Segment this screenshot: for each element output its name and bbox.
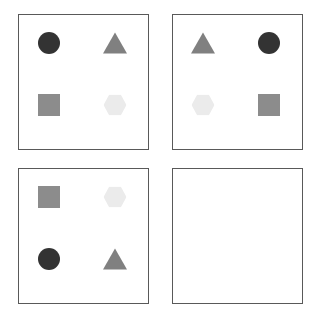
shape-slot-top-right [100,28,130,58]
circle-shape [38,32,60,54]
shape-slot-bottom-left [188,90,218,120]
circle-shape [258,32,280,54]
shape-slot-top-left [188,28,218,58]
square-shape [38,94,60,116]
matrix-panel-bottom-left[interactable] [18,168,149,304]
shape-slot-bottom-right [100,244,130,274]
triangle-shape [191,33,215,54]
hexagon-shape [192,95,215,116]
shape-slot-bottom-left [34,90,64,120]
triangle-shape [103,33,127,54]
hexagon-shape [104,95,127,116]
shape-matrix-grid [0,0,313,315]
shape-slot-top-left [34,28,64,58]
triangle-shape [103,249,127,270]
matrix-panel-bottom-right[interactable] [172,168,303,304]
shape-slot-bottom-left [34,244,64,274]
square-shape [38,186,60,208]
circle-shape [38,248,60,270]
square-shape [258,94,280,116]
shape-slot-top-right [254,28,284,58]
matrix-panel-top-left[interactable] [18,14,149,150]
matrix-panel-top-right[interactable] [172,14,303,150]
hexagon-shape [104,187,127,208]
shape-slot-top-right [100,182,130,212]
shape-slot-top-left [34,182,64,212]
shape-slot-bottom-right [100,90,130,120]
shape-slot-bottom-right [254,90,284,120]
